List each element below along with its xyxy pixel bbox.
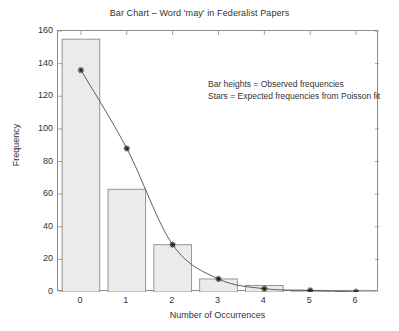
y-tick-label: 160 bbox=[7, 25, 53, 35]
x-axis-label: Number of Occurrences bbox=[57, 310, 378, 320]
x-tick-label: 6 bbox=[353, 295, 358, 305]
y-tick-label: 60 bbox=[7, 188, 53, 198]
x-tick-label: 4 bbox=[261, 295, 266, 305]
y-tick-label: 20 bbox=[7, 253, 53, 263]
bar bbox=[154, 245, 192, 292]
x-tick-label: 0 bbox=[77, 295, 82, 305]
chart-annotations: Bar heights = Observed frequencies Stars… bbox=[208, 78, 380, 102]
plot-canvas bbox=[58, 31, 379, 292]
plot-area: Bar heights = Observed frequencies Stars… bbox=[57, 30, 378, 291]
x-tick-label: 5 bbox=[307, 295, 312, 305]
chart-title: Bar Chart – Word 'may' in Federalist Pap… bbox=[0, 8, 399, 18]
y-tick-label: 40 bbox=[7, 221, 53, 231]
star-marker bbox=[307, 287, 313, 292]
y-tick-label: 0 bbox=[7, 286, 53, 296]
y-tick-label: 140 bbox=[7, 58, 53, 68]
annotation-bars: Bar heights = Observed frequencies bbox=[208, 78, 380, 90]
y-tick-label: 80 bbox=[7, 156, 53, 166]
star-marker bbox=[124, 145, 130, 151]
chart-figure: Bar Chart – Word 'may' in Federalist Pap… bbox=[0, 0, 399, 331]
y-axis-tick-labels: 020406080100120140160 bbox=[4, 30, 53, 291]
x-tick-label: 3 bbox=[215, 295, 220, 305]
y-tick-label: 100 bbox=[7, 123, 53, 133]
x-tick-label: 1 bbox=[123, 295, 128, 305]
x-tick-label: 2 bbox=[169, 295, 174, 305]
bar bbox=[62, 39, 100, 292]
x-axis-tick-labels: 0123456 bbox=[57, 295, 378, 309]
y-tick-label: 120 bbox=[7, 90, 53, 100]
bar bbox=[108, 189, 146, 292]
annotation-stars: Stars = Expected frequencies from Poisso… bbox=[208, 90, 380, 102]
